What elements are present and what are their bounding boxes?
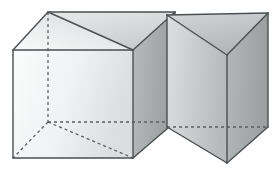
cube-front-face [13, 50, 133, 158]
geometry-figure-container [0, 0, 280, 171]
solid-cube-with-diagonal [13, 12, 175, 158]
solid-triangular-prism [167, 13, 268, 163]
geometry-figure-svg [0, 0, 280, 171]
